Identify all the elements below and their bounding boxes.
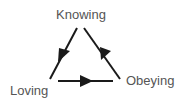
node-label-loving: Loving <box>10 83 48 98</box>
node-label-obeying: Obeying <box>126 73 174 88</box>
edge-knowing-to-loving <box>50 28 77 79</box>
node-label-knowing: Knowing <box>56 7 106 22</box>
edge-loving-to-obeying <box>58 75 113 87</box>
arrow-right-icon <box>80 75 93 87</box>
edge-obeying-to-knowing <box>84 28 120 79</box>
knowing-loving-obeying-diagram: Knowing Loving Obeying <box>0 0 184 98</box>
arrow-down-left-icon <box>58 48 70 62</box>
